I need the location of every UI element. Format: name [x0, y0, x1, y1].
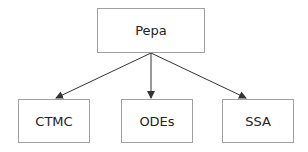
node-ssa-label: SSA — [245, 114, 271, 129]
node-pepa-label: Pepa — [135, 23, 167, 38]
edge-pepa-ctmc — [56, 53, 151, 98]
node-pepa: Pepa — [97, 8, 205, 53]
node-ctmc-label: CTMC — [35, 114, 72, 129]
node-odes: ODEs — [121, 99, 193, 143]
node-odes-label: ODEs — [139, 114, 174, 129]
edge-pepa-ssa — [151, 53, 246, 98]
node-ctmc: CTMC — [18, 99, 90, 143]
node-ssa: SSA — [222, 99, 294, 143]
